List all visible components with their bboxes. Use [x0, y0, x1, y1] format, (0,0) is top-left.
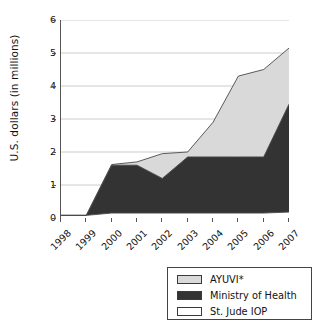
y-tick-mark-6	[52, 20, 56, 21]
chart-legend: AYUVI* Ministry of Health St. Jude IOP	[167, 267, 312, 320]
chart-figure: U.S. dollars (in millions) 6 5 4 3 2 1 0…	[0, 0, 320, 329]
area-chart-svg	[61, 20, 289, 218]
y-tick-mark-3	[52, 119, 56, 120]
legend-item-ayuvi[interactable]: AYUVI*	[177, 272, 311, 287]
y-axis-ticks: 6 5 4 3 2 1 0	[26, 20, 56, 218]
legend-item-st-jude-iop[interactable]: St. Jude IOP	[177, 304, 311, 319]
y-axis-title: U.S. dollars (in millions)	[8, 0, 20, 198]
x-axis-labels: 1998199920002001200220032004200520062007	[0, 222, 320, 262]
plot-area	[60, 20, 288, 218]
legend-label-st-jude-iop: St. Jude IOP	[210, 307, 267, 317]
series-areas	[61, 48, 289, 218]
legend-swatch-ayuvi	[177, 275, 202, 284]
y-tick-mark-5	[52, 53, 56, 54]
legend-swatch-st-jude-iop	[177, 307, 202, 316]
y-tick-mark-4	[52, 86, 56, 87]
y-tick-mark-2	[52, 152, 56, 153]
legend-swatch-ministry-of-health	[177, 291, 202, 300]
legend-item-ministry-of-health[interactable]: Ministry of Health	[177, 288, 311, 303]
y-tick-mark-1	[52, 185, 56, 186]
legend-label-ministry-of-health: Ministry of Health	[210, 291, 297, 301]
legend-label-ayuvi: AYUVI*	[210, 275, 244, 285]
y-tick-mark-0	[52, 218, 56, 219]
